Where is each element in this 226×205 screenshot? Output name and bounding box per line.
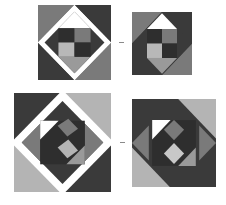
quilt-figure-3-graphic xyxy=(14,93,111,192)
quilt-figure-1 xyxy=(38,5,111,80)
quilt-figure-3 xyxy=(14,93,111,192)
quilt-figure-2 xyxy=(132,12,192,75)
quilt-figure-1-graphic xyxy=(38,5,111,80)
quilt-figure-4 xyxy=(132,99,216,187)
separator-dash-1 xyxy=(119,42,124,43)
quilt-figure-2-graphic xyxy=(132,12,192,75)
quilt-figure-4-graphic xyxy=(132,99,216,187)
separator-dash-2 xyxy=(120,142,125,143)
